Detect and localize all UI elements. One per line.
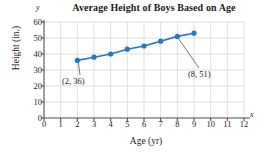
- x-tick-label: 3: [86, 119, 102, 129]
- y-tick-label: 10: [24, 98, 42, 106]
- x-tick-label: 9: [186, 119, 202, 129]
- axis-lines: [44, 20, 250, 118]
- y-tick-label: 50: [24, 34, 42, 42]
- x-tick-label: 5: [119, 119, 135, 129]
- annotation-point-1: (2, 36): [62, 76, 85, 86]
- x-tick-label: 11: [219, 119, 235, 129]
- x-tick-label: 12: [236, 119, 252, 129]
- x-tick-label: 6: [136, 119, 152, 129]
- gridlines: [44, 22, 244, 118]
- y-tick-label: 40: [24, 50, 42, 58]
- x-tick-label: 7: [153, 119, 169, 129]
- x-tick-label: 4: [103, 119, 119, 129]
- x-tick-label: 2: [69, 119, 85, 129]
- y-tick-label: 30: [24, 66, 42, 74]
- x-tick-label: 0: [36, 119, 52, 129]
- axis-ticks: [41, 22, 244, 121]
- y-tick-label: 60: [24, 18, 42, 26]
- x-tick-labels: 0123456789101112: [0, 119, 265, 133]
- y-tick-labels: 0102030405060: [18, 0, 42, 158]
- x-tick-label: 1: [53, 119, 69, 129]
- chart-figure: Average Height of Boys Based on Age y x …: [0, 0, 265, 158]
- y-tick-label: 20: [24, 82, 42, 90]
- x-tick-label: 8: [169, 119, 185, 129]
- x-tick-label: 10: [203, 119, 219, 129]
- annotation-point-2: (8, 51): [188, 69, 211, 79]
